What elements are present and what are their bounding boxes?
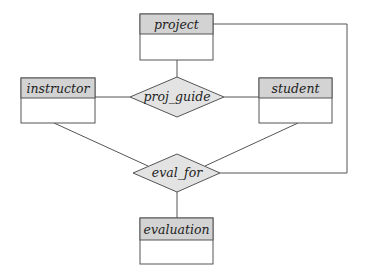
entity-student[interactable]: student xyxy=(259,78,332,123)
connector-instructor-eval_for xyxy=(54,123,148,166)
connector-student-eval_for xyxy=(205,123,298,166)
entity-project[interactable]: project xyxy=(140,14,213,60)
relationship-label: proj_guide xyxy=(143,89,210,104)
entity-label: evaluation xyxy=(143,222,209,237)
entity-instructor[interactable]: instructor xyxy=(21,78,95,123)
entity-label: project xyxy=(154,17,200,32)
relationship-eval_for[interactable]: eval_for xyxy=(133,154,220,192)
relationship-label: eval_for xyxy=(152,165,203,180)
entity-label: instructor xyxy=(26,81,90,96)
entity-label: student xyxy=(272,81,321,96)
relationship-proj_guide[interactable]: proj_guide xyxy=(130,77,224,117)
er-diagram: project instructor student evaluation pr… xyxy=(0,0,365,277)
entity-evaluation[interactable]: evaluation xyxy=(140,218,213,264)
